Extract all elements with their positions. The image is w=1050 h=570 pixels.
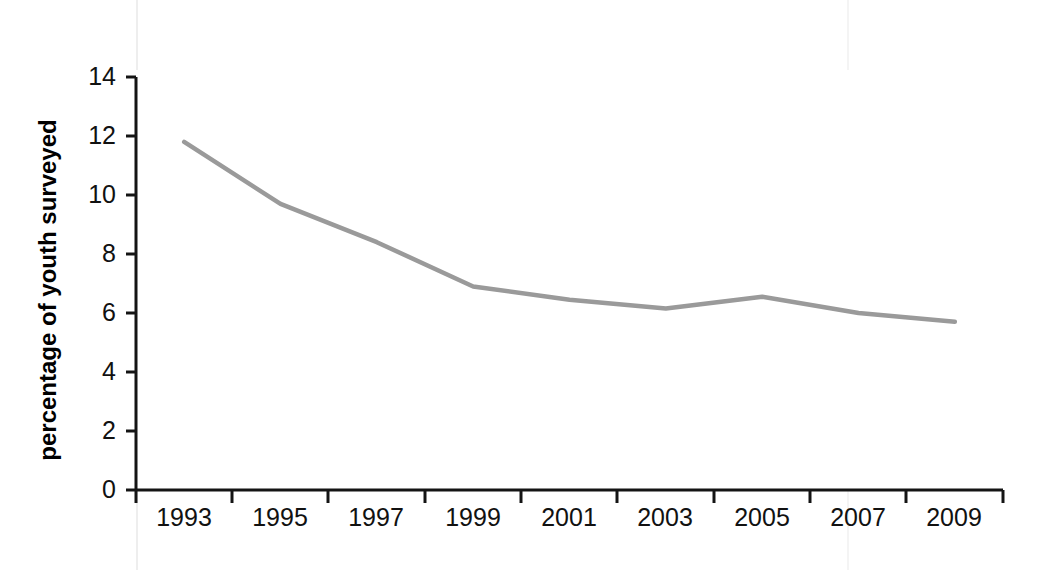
chart-page: 14 12 10 8 6 4 2 0 1993 1995 1997 xyxy=(0,0,1050,570)
x-tick-label: 2003 xyxy=(637,503,693,531)
x-tick-label: 2001 xyxy=(541,503,597,531)
x-tick-label: 1997 xyxy=(348,503,404,531)
x-tick-label: 1993 xyxy=(156,503,212,531)
y-tick-label: 0 xyxy=(102,475,116,503)
y-tick-label: 12 xyxy=(88,121,116,149)
y-tick-label: 4 xyxy=(102,357,116,385)
x-tick-label: 2009 xyxy=(926,503,982,531)
x-tick-label: 1995 xyxy=(252,503,308,531)
y-tick-label: 8 xyxy=(102,239,116,267)
y-tick-label: 2 xyxy=(102,416,116,444)
line-chart: 14 12 10 8 6 4 2 0 1993 1995 1997 xyxy=(0,0,1050,570)
y-tick-label: 10 xyxy=(88,180,116,208)
y-tick-label: 14 xyxy=(88,62,116,90)
x-tick-label: 2007 xyxy=(830,503,886,531)
y-axis-title: percentage of youth surveyed xyxy=(34,119,61,460)
x-axis-ticks xyxy=(136,490,1003,503)
x-axis-tick-labels: 1993 1995 1997 1999 2001 2003 2005 2007 … xyxy=(156,503,982,531)
x-tick-label: 1999 xyxy=(445,503,501,531)
x-tick-label: 2005 xyxy=(734,503,790,531)
y-axis-tick-labels: 14 12 10 8 6 4 2 0 xyxy=(88,62,116,503)
plot-area-background xyxy=(136,70,1004,490)
y-tick-label: 6 xyxy=(102,298,116,326)
